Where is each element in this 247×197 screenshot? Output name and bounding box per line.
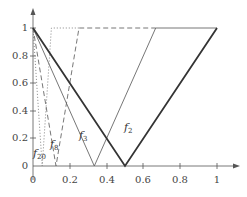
- y-tick-label: 0.8: [12, 50, 28, 61]
- y-tick-label: 0.6: [12, 77, 28, 88]
- label-f2: f2: [123, 121, 133, 135]
- series-f3: [33, 28, 217, 166]
- x-tick-label: 0.4: [99, 174, 115, 185]
- x-tick-label: 0.2: [62, 174, 78, 185]
- label-f8: f8: [49, 138, 59, 152]
- y-tick-labels: 0 0.2 0.4 0.6 0.8 1: [12, 22, 28, 171]
- function-plot: 0 0.2 0.4 0.6 0.8 1 0 0.2 0.4 0.6 0.8 1 …: [0, 0, 247, 197]
- y-tick-label: 1: [22, 22, 28, 33]
- x-tick-label: 0.6: [135, 174, 151, 185]
- label-f20: f20: [32, 147, 46, 161]
- y-tick-label: 0: [22, 160, 28, 171]
- x-tick-label: 1: [214, 174, 220, 185]
- x-tick-label: 0.8: [172, 174, 188, 185]
- label-f3: f3: [78, 129, 88, 143]
- axes: [30, 8, 240, 180]
- y-tick-label: 0.4: [12, 105, 28, 116]
- y-axis-arrow-icon: [31, 8, 36, 15]
- x-tick-labels: 0 0.2 0.4 0.6 0.8 1: [30, 174, 220, 185]
- x-tick-label: 0: [30, 174, 36, 185]
- x-axis-arrow-icon: [233, 164, 240, 169]
- y-tick-label: 0.2: [12, 132, 28, 143]
